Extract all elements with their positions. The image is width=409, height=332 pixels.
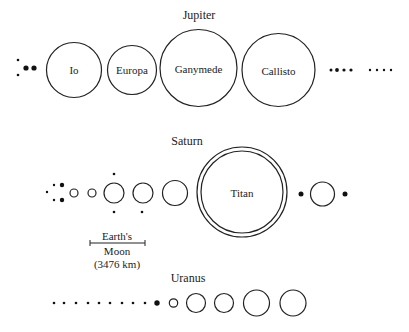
small-moon-dot	[132, 302, 135, 305]
small-moon-dot	[60, 183, 64, 187]
small-moon-dot	[383, 69, 385, 71]
moon-circle	[88, 189, 96, 197]
scale-label-line1: Earth's	[102, 230, 132, 242]
small-moon-dot	[31, 65, 36, 70]
moon-ganymede: Ganymede	[160, 30, 237, 107]
moon-circle	[133, 183, 153, 203]
uranus-inner-small-moons	[53, 300, 160, 305]
small-moon-dot	[121, 302, 124, 305]
small-moon-dot	[113, 173, 116, 176]
small-moon-dot	[299, 192, 304, 197]
jupiter-outer-small-moons	[330, 68, 393, 72]
small-moon-dot	[53, 184, 55, 186]
small-moon-dot	[109, 302, 112, 305]
saturn-title: Saturn	[171, 134, 202, 148]
small-moon-dot	[113, 211, 116, 214]
moon-size-diagram: Jupiter Io Europa Ganymede Callisto	[0, 0, 409, 332]
small-moon-dot	[53, 199, 55, 201]
uranus-title: Uranus	[171, 271, 206, 285]
jupiter-title: Jupiter	[183, 8, 216, 22]
moon-circle	[163, 181, 188, 206]
scale-label-line2: Moon	[104, 245, 131, 257]
scale-label-line3: (3476 km)	[94, 258, 140, 271]
small-moon-dot	[154, 300, 159, 305]
small-moon-dot	[349, 68, 352, 71]
uranus-group: Uranus	[53, 271, 306, 316]
small-moon-dot	[17, 74, 20, 77]
moon-circle	[280, 290, 306, 316]
moon-circle	[70, 189, 78, 197]
moon-circle	[244, 290, 270, 316]
jupiter-group: Jupiter Io Europa Ganymede Callisto	[17, 8, 392, 107]
small-moon-dot	[390, 69, 392, 71]
small-moon-dot	[53, 302, 56, 305]
moon-titan: Titan	[197, 147, 287, 237]
small-moon-dot	[63, 302, 66, 305]
moon-io: Io	[47, 43, 102, 98]
small-moon-dot	[369, 69, 371, 71]
small-moon-dot	[376, 69, 378, 71]
europa-label: Europa	[116, 64, 148, 76]
titan-label: Titan	[231, 187, 254, 199]
small-moon-dot	[75, 302, 78, 305]
small-moon-dot	[60, 198, 64, 202]
small-moon-dot	[335, 68, 339, 72]
callisto-label: Callisto	[261, 65, 296, 77]
small-moon-dot	[343, 192, 348, 197]
small-moon-dot	[87, 302, 90, 305]
small-moon-dot	[342, 68, 345, 71]
io-label: Io	[69, 64, 79, 76]
small-moon-dot	[144, 302, 147, 305]
moon-europa: Europa	[108, 46, 157, 95]
small-moon-dot	[330, 69, 333, 72]
moon-circle	[187, 294, 206, 313]
saturn-inner-small-moons	[46, 183, 64, 202]
jupiter-inner-small-moons	[17, 59, 37, 77]
earth-moon-scale-bar: Earth's Moon (3476 km)	[90, 230, 145, 271]
moon-circle	[104, 183, 124, 203]
saturn-group: Saturn Titan Earth's	[46, 134, 348, 271]
moon-circle	[311, 182, 335, 206]
small-moon-dot	[17, 59, 20, 62]
small-moon-dot	[46, 191, 48, 193]
ganymede-label: Ganymede	[175, 63, 223, 75]
moon-circle	[215, 294, 234, 313]
small-moon-dot	[98, 302, 101, 305]
moon-circle	[169, 299, 177, 307]
moon-callisto: Callisto	[242, 34, 315, 107]
small-moon-dot	[23, 65, 28, 70]
small-moon-dot	[141, 211, 144, 214]
